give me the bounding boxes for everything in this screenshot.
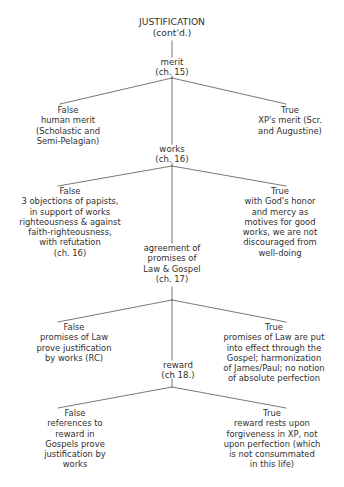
node-works-true: True with God's honor and mercy as motiv… bbox=[218, 186, 342, 258]
node-works-false: False 3 objections of papists, in suppor… bbox=[2, 186, 138, 258]
node-reward-false: False references to reward in Gospels pr… bbox=[20, 408, 130, 470]
edge-works-to-false bbox=[58, 166, 172, 186]
node-agreement-false: False promises of Law prove justificatio… bbox=[12, 322, 136, 363]
node-merit-false: False human merit (Scholastic and Semi-P… bbox=[8, 105, 128, 146]
edge-merit-to-true bbox=[172, 78, 286, 104]
node-agreement-true: True promises of Law are put into effect… bbox=[204, 322, 344, 384]
edge-reward-to-true bbox=[172, 387, 286, 408]
node-agreement: agreement of promises of Law & Gospel (c… bbox=[122, 243, 222, 284]
edge-agreement-to-false bbox=[58, 300, 172, 322]
edge-works-to-true bbox=[172, 166, 286, 186]
node-reward-true: True reward rests upon forgiveness in XP… bbox=[202, 408, 342, 470]
node-merit: merit (ch. 15) bbox=[122, 57, 222, 78]
edge-reward-to-false bbox=[58, 387, 172, 408]
node-merit-true: True XP's merit (Scr. and Augustine) bbox=[238, 105, 342, 136]
edge-agreement-to-true bbox=[172, 300, 286, 322]
node-works: works (ch. 16) bbox=[130, 144, 214, 165]
node-title: JUSTIFICATION (cont'd.) bbox=[92, 16, 252, 38]
edge-merit-to-false bbox=[60, 78, 172, 104]
diagram-canvas: JUSTIFICATION (cont'd.) merit (ch. 15) F… bbox=[0, 0, 344, 487]
node-reward: reward (ch 18.) bbox=[136, 360, 220, 381]
